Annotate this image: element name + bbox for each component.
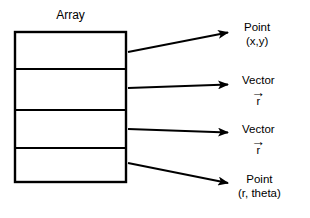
arrow-to-vector-r-1	[128, 85, 228, 89]
label-point-xy-line1: Point	[244, 20, 270, 34]
array-cell-1[interactable]	[16, 33, 125, 68]
label-vector-r-2: Vector → r	[242, 122, 275, 156]
label-point-xy: Point (x,y)	[244, 20, 270, 48]
label-vector-r-1: Vector → r	[242, 73, 275, 107]
label-point-xy-line2: (x,y)	[244, 34, 270, 48]
arrow-to-vector-r-2	[128, 129, 228, 133]
label-vector-r-1-base: r	[242, 96, 275, 107]
label-vector-r-2-base: r	[242, 145, 275, 156]
arrow-to-point-r-theta	[128, 163, 228, 183]
arrow-to-point-xy	[128, 33, 228, 53]
diagram-canvas: Array Point (x,y) Vector → r Vector →	[0, 0, 310, 218]
label-point-r-theta: Point (r, theta)	[238, 172, 281, 200]
label-point-r-theta-line2: (r, theta)	[238, 186, 281, 200]
array-cell-2[interactable]	[16, 70, 125, 109]
array-cell-3[interactable]	[16, 111, 125, 147]
label-point-r-theta-line1: Point	[238, 172, 281, 186]
array-cell-4[interactable]	[16, 149, 125, 181]
